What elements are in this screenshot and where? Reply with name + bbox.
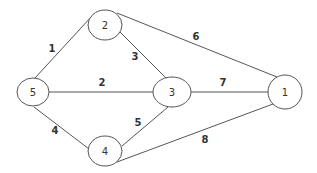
node-label: 1	[282, 87, 288, 98]
edge-weight-label: 7	[220, 77, 227, 88]
edge-5-4	[34, 107, 89, 149]
node-2: 2	[88, 10, 122, 40]
edge-2-1	[117, 13, 277, 77]
node-label: 5	[30, 87, 36, 98]
node-4: 4	[88, 136, 122, 166]
node-label: 3	[169, 87, 175, 98]
node-3: 3	[153, 77, 191, 107]
edge-weight-label: 6	[193, 31, 200, 42]
edge-weight-label: 3	[132, 51, 139, 62]
edge-weight-label: 4	[52, 125, 59, 136]
edge-weight-label: 1	[49, 43, 56, 54]
edge-weight-label: 2	[99, 77, 106, 88]
edge-weight-label: 8	[202, 134, 209, 145]
node-label: 4	[102, 146, 108, 157]
node-5: 5	[17, 78, 49, 106]
edge-weight-label: 5	[135, 117, 142, 128]
edge-5-2	[35, 16, 92, 78]
nodes-group: 12345	[17, 10, 302, 166]
node-label: 2	[102, 20, 108, 31]
edge-4-1	[117, 104, 273, 162]
edge-4-3	[122, 107, 168, 146]
edge-2-3	[120, 32, 166, 78]
graph-diagram: 12345678 12345	[0, 0, 317, 173]
edge-labels-group: 12345678	[49, 31, 227, 145]
node-1: 1	[268, 75, 302, 109]
